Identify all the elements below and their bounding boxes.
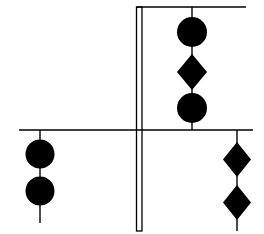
mast	[137, 7, 143, 231]
diamond-shape-icon	[223, 142, 251, 177]
ball-shape-icon	[26, 140, 55, 169]
ball-shape-icon	[177, 17, 207, 47]
signal-diagram	[0, 0, 264, 234]
mast-and-spars	[19, 7, 253, 231]
ball-shape-icon	[177, 93, 207, 123]
diamond-shape-icon	[177, 54, 207, 90]
left-yardarm-hoist	[26, 130, 55, 223]
ball-shape-icon	[26, 177, 55, 206]
diamond-shape-icon	[223, 185, 251, 220]
diagram-svg	[0, 0, 264, 234]
right-yardarm-hoist	[223, 130, 251, 231]
upper-hoist	[177, 7, 207, 130]
